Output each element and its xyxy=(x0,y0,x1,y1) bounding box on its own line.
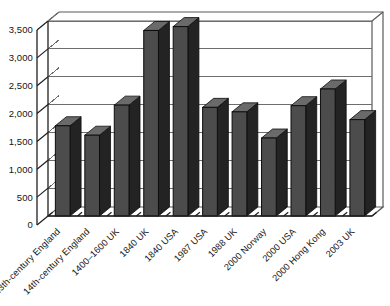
y-tick-label: 3,500 xyxy=(9,24,33,35)
bar-front-face xyxy=(203,107,218,216)
chart-canvas: 05001,0001,5002,0002,5003,0003,500 13th-… xyxy=(0,0,390,306)
y-tick-2500 xyxy=(37,77,48,86)
x-category-label: 2003 UK xyxy=(324,226,357,259)
bar-side-face xyxy=(247,103,258,216)
bar-side-face xyxy=(365,111,376,216)
y-tick-0 xyxy=(37,216,48,225)
bar-side-face xyxy=(129,96,140,216)
bar-front-face xyxy=(232,112,247,216)
bar xyxy=(232,103,258,216)
y-tick-label: 0 xyxy=(28,219,33,230)
bar xyxy=(262,129,288,216)
bar-front-face xyxy=(114,105,129,216)
bar-side-face xyxy=(306,97,317,216)
y-tick-label: 1,500 xyxy=(9,136,33,147)
bar-front-face xyxy=(262,138,277,216)
bar xyxy=(85,126,111,216)
bar xyxy=(203,98,229,216)
y-tick-label: 2,500 xyxy=(9,80,33,91)
y-tick-500 xyxy=(37,188,48,197)
y-tick-label: 1,000 xyxy=(9,164,33,175)
y-tick-label: 500 xyxy=(17,192,33,203)
bar xyxy=(320,80,346,216)
y-tick-3500 xyxy=(37,21,48,30)
bar-front-face xyxy=(291,106,306,216)
bar-front-face xyxy=(350,120,365,216)
bar xyxy=(291,97,317,216)
bar-side-face xyxy=(70,117,81,216)
y-axis xyxy=(37,21,48,225)
y-tick-group xyxy=(37,21,48,225)
bar xyxy=(114,96,140,216)
bar-side-face xyxy=(217,98,228,216)
y-tick-1000 xyxy=(37,160,48,169)
bar-front-face xyxy=(144,30,159,216)
bar-side-face xyxy=(188,18,199,216)
bar-front-face xyxy=(85,135,100,216)
bar-side-face xyxy=(335,80,346,216)
x-category-label-group: 13th-century England14th-century England… xyxy=(0,226,357,297)
bar-chart-figure: 05001,0001,5002,0002,5003,0003,500 13th-… xyxy=(0,0,390,306)
gridline-depth-7 xyxy=(48,12,59,21)
bar-front-face xyxy=(173,27,188,216)
bar-front-face xyxy=(320,89,335,216)
y-tick-3000 xyxy=(37,49,48,58)
y-tick-1500 xyxy=(37,132,48,141)
y-tick-label: 3,000 xyxy=(9,52,33,63)
y-tick-label: 2,000 xyxy=(9,108,33,119)
bar-side-face xyxy=(158,21,169,216)
bar xyxy=(350,111,376,216)
bar xyxy=(55,117,81,216)
bar xyxy=(144,21,170,216)
x-category-label: 2000 Hong Kong xyxy=(270,226,327,283)
y-tick-label-group: 05001,0001,5002,0002,5003,0003,500 xyxy=(9,24,33,230)
bar-front-face xyxy=(55,126,70,216)
bar xyxy=(173,18,199,216)
bar-side-face xyxy=(100,126,111,216)
y-tick-2000 xyxy=(37,105,48,114)
bar-side-face xyxy=(276,129,287,216)
